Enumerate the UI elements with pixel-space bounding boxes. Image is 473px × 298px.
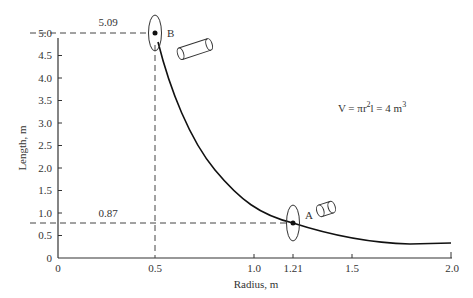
value-b-label: 5.09: [98, 16, 118, 28]
svg-text:2.5: 2.5: [38, 139, 52, 151]
svg-text:4.5: 4.5: [38, 49, 52, 61]
x-axis-label: Radius, m: [234, 278, 279, 290]
x-tick-labels: 0 0.5 1.0 1.21 1.5 2.0: [55, 262, 459, 274]
svg-text:1.0: 1.0: [247, 262, 261, 274]
svg-text:B: B: [167, 27, 174, 39]
svg-text:1.5: 1.5: [345, 262, 359, 274]
y-axis-label: Length, m: [16, 125, 28, 171]
long-cylinder-icon: [176, 38, 214, 61]
chart: 0 0.5 1.0 1.5 2.0 2.5 3.0 3.5 4.0 4.5 5.…: [0, 0, 473, 298]
svg-text:0.5: 0.5: [148, 262, 162, 274]
svg-text:3.0: 3.0: [38, 117, 52, 129]
volume-equation: V = πr2l = 4 m3: [338, 100, 406, 114]
svg-text:1.21: 1.21: [283, 262, 302, 274]
value-a-label: 0.87: [98, 207, 118, 219]
y-tick-labels: 0 0.5 1.0 1.5 2.0 2.5 3.0 3.5 4.0 4.5 5.…: [38, 27, 52, 264]
svg-text:1.5: 1.5: [38, 184, 52, 196]
svg-text:1.0: 1.0: [38, 207, 52, 219]
short-cylinder-icon: [315, 200, 337, 217]
point-b: B: [149, 15, 175, 51]
svg-text:2.0: 2.0: [38, 162, 52, 174]
guide-lines: [30, 33, 288, 258]
svg-text:2.0: 2.0: [445, 262, 459, 274]
svg-text:A: A: [305, 209, 313, 221]
svg-text:4.0: 4.0: [38, 72, 52, 84]
svg-text:3.5: 3.5: [38, 94, 52, 106]
x-ticks: [254, 252, 451, 258]
svg-text:0.5: 0.5: [38, 229, 52, 241]
svg-text:0: 0: [47, 252, 53, 264]
svg-text:0: 0: [55, 262, 61, 274]
